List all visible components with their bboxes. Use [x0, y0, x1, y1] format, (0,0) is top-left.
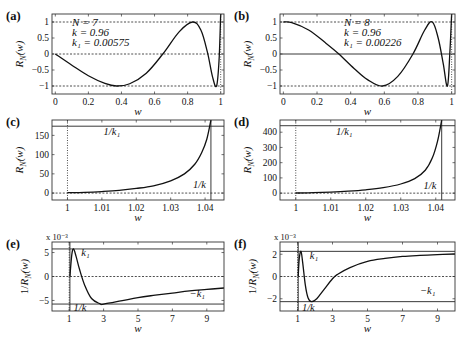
y-tick-label: 100: [263, 173, 278, 183]
y-tick-label: 0: [44, 49, 49, 59]
y-tick-label: 200: [263, 158, 278, 168]
annotation: −k₁: [420, 285, 435, 296]
panel-c: 11.011.021.031.04050100150wRN(w)(c)1/k₁1…: [6, 115, 224, 223]
y-axis-label: RN(w): [13, 40, 28, 68]
x-tick-label: 1.01: [94, 203, 111, 213]
x-tick-label: 1.04: [427, 203, 444, 213]
param-text: k₁ = 0.00575: [72, 36, 130, 48]
x-tick-label: 0: [53, 97, 58, 107]
x-axis-label: w: [364, 322, 372, 334]
y-tick-label: −1: [267, 81, 277, 91]
x-tick-label: 0.6: [149, 97, 161, 107]
panel-f: 13579−202w1/RN(w)(f)x 10⁻³k₁−k₁1/k: [234, 232, 455, 334]
y-scale-note: x 10⁻³: [274, 232, 296, 242]
annotation: 1/k: [193, 179, 206, 190]
annotation: k₁: [310, 250, 318, 261]
y-tick-label: 1: [272, 17, 277, 27]
x-tick-label: 1: [449, 97, 454, 107]
y-axis-label: 1/RN(w): [18, 259, 33, 295]
x-tick-label: 0.4: [116, 97, 128, 107]
x-tick-label: 3: [330, 314, 335, 324]
annotation: k₁: [81, 247, 89, 258]
y-tick-label: 0: [272, 49, 277, 59]
x-tick-label: 3: [101, 314, 106, 324]
panel-e: 13579−505w1/RN(w)(e)x 10⁻³k₁−k₁1/k: [6, 232, 224, 334]
panel-label: (c): [6, 115, 20, 129]
y-tick-label: 0.5: [37, 33, 49, 43]
panel-b: 00.20.40.60.81−1−0.500.51wRN(w)(b)N = 8k…: [234, 9, 455, 117]
x-axis-label: w: [364, 211, 372, 223]
x-tick-label: 1: [65, 203, 70, 213]
panel-label: (f): [234, 237, 247, 251]
y-axis-label: 1/RN(w): [246, 259, 261, 295]
x-axis-label: w: [134, 211, 142, 223]
y-tick-label: 50: [40, 169, 50, 179]
annotation: 1/k₁: [104, 126, 120, 137]
x-tick-label: 1: [293, 203, 298, 213]
x-tick-label: 1.03: [162, 203, 179, 213]
x-tick-label: 1.03: [392, 203, 409, 213]
x-tick-label: 0.2: [311, 97, 323, 107]
annotation: 1/k: [424, 180, 437, 191]
y-axis-label: RN(w): [241, 40, 256, 68]
y-tick-label: −5: [39, 296, 49, 306]
y-tick-label: 400: [263, 127, 278, 137]
x-axis-label: w: [364, 105, 372, 117]
y-tick-label: −0.5: [260, 65, 277, 75]
x-tick-label: 0.4: [345, 97, 357, 107]
x-tick-label: 7: [400, 314, 405, 324]
x-tick-label: 9: [204, 314, 209, 324]
y-tick-label: −2: [267, 294, 277, 304]
x-tick-label: 0.8: [182, 97, 194, 107]
panel-a: 00.20.40.60.81−1−0.500.51wRN(w)(a)N = 7k…: [6, 9, 224, 117]
x-axis-label: w: [134, 322, 142, 334]
x-tick-label: 0.2: [82, 97, 94, 107]
data-series-curve: [296, 120, 442, 193]
param-text: k₁ = 0.00226: [344, 36, 402, 48]
y-tick-label: 0: [272, 188, 277, 198]
y-tick-label: 300: [263, 143, 278, 153]
annotation: −k₁: [190, 288, 205, 299]
y-tick-label: 5: [44, 248, 49, 258]
x-tick-label: 1.01: [322, 203, 339, 213]
panel-d: 11.011.021.031.040100200300400wRN(w)(d)1…: [234, 115, 455, 223]
y-tick-label: −1: [39, 81, 49, 91]
x-tick-label: 0.8: [412, 97, 424, 107]
figure: 00.20.40.60.81−1−0.500.51wRN(w)(a)N = 7k…: [0, 0, 469, 341]
y-tick-label: 2: [272, 250, 277, 260]
panel-label: (a): [6, 9, 21, 23]
y-scale-note: x 10⁻³: [46, 232, 68, 242]
x-tick-label: 1.04: [197, 203, 214, 213]
data-series-curve: [67, 120, 210, 193]
y-axis-label: RN(w): [13, 146, 28, 174]
x-tick-label: 9: [435, 314, 440, 324]
y-tick-label: 150: [35, 131, 50, 141]
y-tick-label: 1: [44, 17, 49, 27]
x-tick-label: 1: [67, 314, 72, 324]
y-tick-label: 0: [272, 272, 277, 282]
x-tick-label: 1: [218, 97, 223, 107]
y-tick-label: 100: [35, 150, 50, 160]
y-tick-label: 0.5: [265, 33, 277, 43]
panel-label: (b): [234, 9, 249, 23]
annotation: 1/k: [302, 302, 315, 313]
annotation: 1/k: [74, 302, 87, 313]
y-axis-label: RN(w): [241, 146, 256, 174]
panel-label: (e): [6, 237, 20, 251]
x-tick-label: 7: [170, 314, 175, 324]
y-tick-label: 0: [44, 188, 49, 198]
panel-label: (d): [234, 115, 249, 129]
x-axis-label: w: [134, 105, 142, 117]
x-tick-label: 0: [281, 97, 286, 107]
annotation: 1/k₁: [336, 126, 352, 137]
x-tick-label: 1: [295, 314, 300, 324]
y-tick-label: 0: [44, 272, 49, 282]
y-tick-label: −0.5: [32, 65, 49, 75]
x-tick-label: 0.6: [378, 97, 390, 107]
